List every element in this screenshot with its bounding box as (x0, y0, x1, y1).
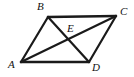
vertex-label-b: B (37, 1, 44, 12)
geometry-canvas (0, 0, 134, 77)
vertex-label-d: D (92, 62, 100, 73)
vertex-label-c: C (120, 6, 127, 17)
geometry-figure: A B C D E (0, 0, 134, 77)
segment-bc (48, 16, 116, 17)
vertex-label-e: E (67, 23, 74, 34)
vertex-label-a: A (8, 59, 15, 70)
